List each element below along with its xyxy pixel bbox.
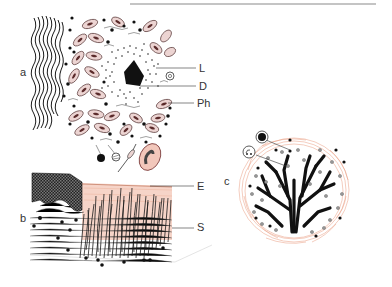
panel-label-c: c xyxy=(224,176,230,187)
annotation-d: D xyxy=(199,81,207,92)
annotation-ph: Ph xyxy=(197,98,210,109)
annotation-e: E xyxy=(197,181,204,192)
necrotic-center xyxy=(124,60,144,86)
panel-label-b: b xyxy=(20,213,26,224)
cell-l-marker xyxy=(166,72,174,80)
panel-c-drawing xyxy=(239,131,349,243)
annotation-s: S xyxy=(197,222,204,233)
figure-illustration xyxy=(0,0,392,287)
panel-label-a: a xyxy=(20,67,26,78)
panel-a-drawing xyxy=(31,15,177,174)
callout-granule-cell xyxy=(243,146,255,158)
annotation-l: L xyxy=(199,63,205,74)
panel-b-drawing xyxy=(30,173,212,267)
